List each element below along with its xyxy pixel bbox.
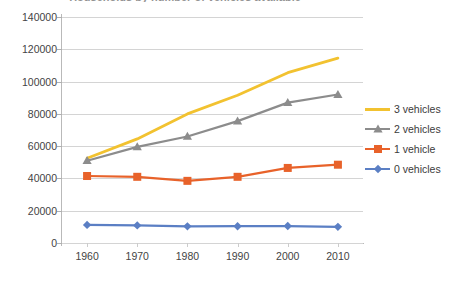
y-axis-tick-label: 0 xyxy=(1,237,57,249)
y-axis-tick-mark xyxy=(57,146,62,147)
y-axis-tick-mark xyxy=(57,49,62,50)
y-axis-tick-mark xyxy=(57,178,62,179)
y-axis-tick-label: 60000 xyxy=(1,140,57,152)
x-axis-tick-label: 2000 xyxy=(263,250,313,262)
gridline xyxy=(62,243,363,244)
data-point-marker xyxy=(183,132,192,140)
x-axis-tick-label: 2010 xyxy=(313,250,363,262)
data-point-marker xyxy=(373,124,382,132)
data-point-marker xyxy=(133,221,141,229)
x-axis-tick-mark xyxy=(338,243,339,247)
series-line xyxy=(87,95,338,161)
gridline xyxy=(62,146,363,147)
x-axis-tick-label: 1970 xyxy=(112,250,162,262)
x-axis-tick-label: 1980 xyxy=(162,250,212,262)
gridline xyxy=(62,17,363,18)
data-point-marker xyxy=(83,221,91,229)
data-point-marker xyxy=(334,161,342,169)
data-point-marker xyxy=(374,145,382,153)
data-point-marker xyxy=(233,222,241,230)
legend-marker-square-icon xyxy=(371,142,385,156)
series-2-vehicles xyxy=(82,90,342,164)
legend-marker-diamond-icon xyxy=(371,162,385,176)
chart-legend: 3 vehicles2 vehicles1 vehicle0 vehicles xyxy=(365,99,469,179)
data-point-marker xyxy=(333,90,342,98)
gridline xyxy=(62,178,363,179)
data-point-marker xyxy=(183,222,191,230)
gridline xyxy=(62,211,363,212)
legend-label: 1 vehicle xyxy=(394,143,435,155)
y-axis-tick-mark xyxy=(57,17,62,18)
x-axis-tick-mark xyxy=(288,243,289,247)
y-axis-tick-label: 20000 xyxy=(1,205,57,217)
data-point-marker xyxy=(133,173,141,181)
series-3-vehicles xyxy=(87,58,338,158)
legend-swatch xyxy=(365,162,390,176)
data-point-marker xyxy=(284,164,292,172)
x-axis-tick-mark xyxy=(87,243,88,247)
series-line xyxy=(87,58,338,158)
legend-item[interactable]: 2 vehicles xyxy=(365,119,469,139)
data-point-marker xyxy=(334,223,342,231)
series-0-vehicles xyxy=(83,221,342,231)
legend-item[interactable]: 3 vehicles xyxy=(365,99,469,119)
y-axis-tick-label: 80000 xyxy=(1,108,57,120)
data-point-marker xyxy=(283,98,292,106)
x-axis-tick-mark xyxy=(238,243,239,247)
line-chart: Households by number of vehicles availab… xyxy=(0,0,469,281)
gridline xyxy=(62,82,363,83)
legend-label: 3 vehicles xyxy=(394,103,441,115)
data-point-marker xyxy=(284,222,292,230)
data-point-marker xyxy=(82,156,91,164)
legend-swatch xyxy=(365,142,390,156)
legend-item[interactable]: 0 vehicles xyxy=(365,159,469,179)
y-axis-tick-label: 120000 xyxy=(1,43,57,55)
legend-item[interactable]: 1 vehicle xyxy=(365,139,469,159)
legend-label: 2 vehicles xyxy=(394,123,441,135)
gridline xyxy=(62,114,363,115)
y-axis-tick-label: 40000 xyxy=(1,172,57,184)
series-line xyxy=(87,225,338,227)
y-axis-tick-mark xyxy=(57,211,62,212)
series-1-vehicle xyxy=(83,161,342,185)
legend-swatch xyxy=(365,122,390,136)
data-point-marker xyxy=(233,117,242,125)
gridline xyxy=(62,49,363,50)
x-axis-tick-mark xyxy=(187,243,188,247)
y-axis-tick-mark xyxy=(57,243,62,244)
x-axis-tick-mark xyxy=(137,243,138,247)
y-axis-tick-label: 100000 xyxy=(1,76,57,88)
y-axis-tick-mark xyxy=(57,114,62,115)
x-axis-tick-label: 1960 xyxy=(62,250,112,262)
legend-label: 0 vehicles xyxy=(394,163,441,175)
x-axis-tick-label: 1990 xyxy=(213,250,263,262)
data-point-marker xyxy=(374,165,382,173)
y-axis-tick-label: 140000 xyxy=(1,11,57,23)
legend-line xyxy=(365,108,390,111)
legend-swatch xyxy=(365,102,390,116)
chart-title: Households by number of vehicles availab… xyxy=(0,0,370,2)
data-point-marker xyxy=(234,173,242,181)
y-axis-tick-mark xyxy=(57,82,62,83)
legend-marker-triangle-icon xyxy=(371,122,385,136)
